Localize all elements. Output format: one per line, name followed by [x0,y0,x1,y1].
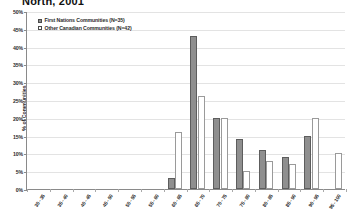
x-axis-label: 90 - 95 [302,193,320,214]
y-axis-label: 25% [13,98,23,104]
x-axis-label: 75 - 80 [234,193,252,214]
bar-bin-group [187,12,210,189]
bar-fn [236,139,243,189]
bar-oc [221,118,228,189]
x-tick-mark [278,189,279,192]
y-axis-label: 20% [13,116,23,122]
bar-bin-group [50,12,73,189]
chart-legend: First Nations Communities (N=35)Other Ca… [38,17,132,32]
x-tick-mark [27,189,28,192]
x-tick-mark [209,189,210,192]
y-axis-label: 10% [13,151,23,157]
y-axis-label: 35% [13,62,23,68]
legend-item: First Nations Communities (N=35) [38,17,132,25]
bar-bin-group [323,12,346,189]
x-tick-mark [118,189,119,192]
x-tick-mark [164,189,165,192]
x-axis-label: 35 - 40 [51,193,69,214]
x-axis-label: 65 - 70 [188,193,206,214]
x-axis-label: 85 - 90 [279,193,297,214]
bar-oc [312,118,319,189]
plot-area: 0%5%10%15%20%25%30%35%40%45%50% 30 - 353… [26,12,345,190]
bar-fn [259,150,266,189]
x-axis-label: 50 - 55 [120,193,138,214]
bar-bin-group [141,12,164,189]
x-tick-mark [232,189,233,192]
bar-bin-group [232,12,255,189]
x-tick-mark [187,189,188,192]
bar-oc [266,161,273,189]
bar-bin-group [300,12,323,189]
x-tick-mark [50,189,51,192]
bar-bin-group [255,12,278,189]
bar-fn [282,157,289,189]
bar-fn [168,178,175,189]
x-axis-label: 45 - 50 [97,193,115,214]
legend-item: Other Canadian Communities (N=42) [38,25,132,33]
bar-oc [198,96,205,189]
x-axis-label: 55 - 60 [142,193,160,214]
bar-bin-group [278,12,301,189]
bar-bin-group [164,12,187,189]
x-tick-mark [300,189,301,192]
bar-fn [190,36,197,189]
x-axis-label: 40 - 45 [74,193,92,214]
y-axis-label: 15% [13,134,23,140]
bar-oc [289,164,296,189]
bar-fn [213,118,220,189]
legend-label: First Nations Communities (N=35) [45,17,125,25]
chart-container: North, 2001 % of Communities 0%5%10%15%2… [0,0,351,215]
x-axis-label: 30 - 35 [29,193,47,214]
x-axis-label: 60 - 65 [165,193,183,214]
x-tick-mark [346,189,347,192]
x-axis-label: 95 - 100 [325,193,343,214]
bar-bin-group [95,12,118,189]
y-axis-label: 40% [13,45,23,51]
y-axis-label: 5% [16,169,23,175]
x-axis-label: 70 - 75 [211,193,229,214]
bar-fn [304,136,311,189]
y-axis-label: 0% [16,187,23,193]
y-axis-label: 30% [13,80,23,86]
x-tick-mark [255,189,256,192]
x-tick-mark [141,189,142,192]
bar-oc [243,171,250,189]
legend-label: Other Canadian Communities (N=42) [45,25,132,33]
y-axis-label: 50% [13,9,23,15]
legend-swatch-oc [38,26,42,30]
bar-bin-group [209,12,232,189]
x-tick-mark [323,189,324,192]
bar-oc [175,132,182,189]
x-tick-mark [95,189,96,192]
bar-bin-group [27,12,50,189]
x-axis-label: 80 - 85 [256,193,274,214]
chart-title: North, 2001 [22,0,84,7]
bar-bin-group [118,12,141,189]
y-axis-label: 45% [13,27,23,33]
bar-bin-group [73,12,96,189]
x-tick-mark [73,189,74,192]
legend-swatch-fn [38,19,42,23]
bar-oc [335,153,342,189]
